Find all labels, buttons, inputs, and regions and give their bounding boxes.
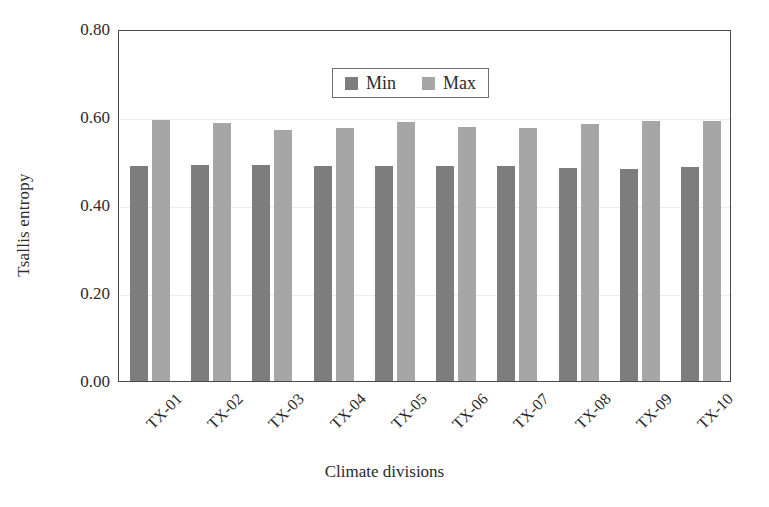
x-axis-title: Climate divisions (0, 462, 769, 482)
chart-figure: Tsallis entropy 0.800.600.400.200.00 Min… (0, 0, 769, 507)
x-axis-tick-labels: TX-01TX-02TX-03TX-04TX-05TX-06TX-07TX-08… (0, 0, 769, 507)
